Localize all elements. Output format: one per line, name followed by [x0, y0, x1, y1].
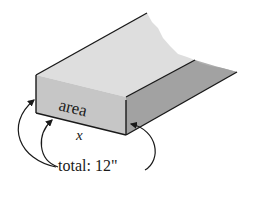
arrow-bottom	[41, 120, 58, 167]
total-label: total: 12"	[58, 157, 117, 174]
x-label: x	[75, 127, 83, 143]
gutter-diagram: area x total: 12"	[0, 0, 257, 200]
